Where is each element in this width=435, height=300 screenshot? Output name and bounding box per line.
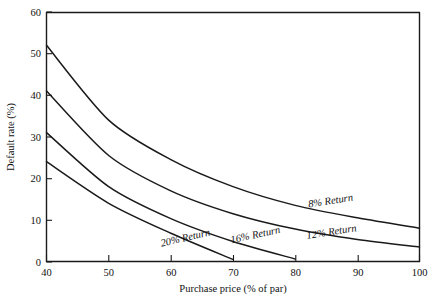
x-tick-label-90: 90 [353, 267, 364, 278]
y-tick-label-60: 60 [31, 7, 42, 18]
y-tick-label-50: 50 [31, 48, 42, 59]
x-tick-label-100: 100 [412, 267, 428, 278]
default-rate-line-chart: 0 10 20 30 40 50 60 40 50 60 70 80 90 10… [0, 0, 435, 300]
x-tick-label-70: 70 [228, 267, 239, 278]
x-tick-label-50: 50 [104, 267, 115, 278]
plot-area-background [46, 12, 420, 262]
x-tick-label-40: 40 [41, 267, 52, 278]
y-tick-label-20: 20 [31, 173, 42, 184]
x-tick-label-80: 80 [291, 267, 302, 278]
x-axis-tick-labels: 40 50 60 70 80 90 100 [41, 267, 427, 278]
y-tick-label-0: 0 [36, 257, 41, 268]
y-tick-label-30: 30 [31, 132, 42, 143]
y-axis-tick-labels: 0 10 20 30 40 50 60 [31, 7, 42, 268]
y-tick-label-40: 40 [31, 90, 42, 101]
y-tick-label-10: 10 [31, 215, 42, 226]
x-axis-title: Purchase price (% of par) [179, 283, 287, 295]
chart-container: 0 10 20 30 40 50 60 40 50 60 70 80 90 10… [0, 0, 435, 300]
x-tick-label-60: 60 [166, 267, 177, 278]
y-axis-title: Default rate (%) [5, 102, 17, 171]
